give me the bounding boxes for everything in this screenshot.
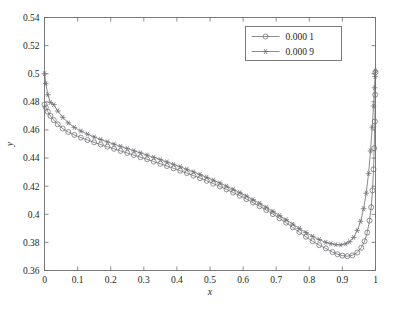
x-tick-label: 0.2 — [105, 275, 117, 285]
x-tick-label: 0.6 — [237, 275, 249, 285]
x-tick-label: 0.3 — [138, 275, 150, 285]
y-tick-label: 0.38 — [23, 238, 40, 248]
x-tick-label: 0.4 — [171, 275, 183, 285]
x-tick-label: 0.1 — [72, 275, 84, 285]
x-tick-label: 0 — [42, 275, 47, 285]
legend-label: 0.000 1 — [286, 32, 315, 42]
y-tick-label: 0.4 — [28, 210, 40, 220]
x-tick-label: 0.8 — [303, 275, 315, 285]
y-axis-title: y — [4, 141, 15, 147]
x-tick-label: 0.7 — [270, 275, 282, 285]
y-tick-label: 0.48 — [23, 97, 40, 107]
legend: 0.000 10.000 9 — [246, 27, 342, 61]
y-tick-label: 0.44 — [23, 153, 40, 163]
x-tick-label: 0.5 — [204, 275, 216, 285]
x-tick-label: 0.9 — [336, 275, 348, 285]
y-tick-label: 0.54 — [23, 13, 40, 23]
figure-caption — [0, 293, 395, 309]
line-chart: 00.10.20.30.40.50.60.70.80.910.360.380.4… — [0, 0, 395, 310]
x-tick-label: 1 — [373, 275, 378, 285]
y-tick-label: 0.46 — [23, 125, 40, 135]
figure-page: 00.10.20.30.40.50.60.70.80.910.360.380.4… — [0, 0, 395, 310]
y-tick-label: 0.5 — [28, 69, 40, 79]
y-tick-label: 0.36 — [23, 266, 40, 276]
y-tick-label: 0.52 — [23, 41, 40, 51]
legend-label: 0.000 9 — [286, 47, 315, 57]
y-tick-label: 0.42 — [23, 182, 40, 192]
